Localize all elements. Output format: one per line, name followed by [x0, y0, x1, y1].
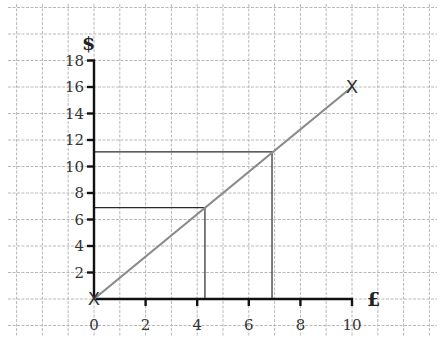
y-tick-label: 6 [74, 211, 84, 229]
y-tick-label: 12 [65, 131, 84, 149]
y-tick-label: 18 [65, 52, 84, 70]
y-axis-label: $ [82, 32, 95, 54]
x-marker: X [88, 288, 100, 309]
x-marker: X [346, 76, 358, 97]
y-tick-label: 8 [74, 184, 84, 202]
y-tick-label: 14 [65, 105, 84, 123]
x-tick-label: 4 [192, 316, 202, 334]
x-tick-label: 6 [244, 316, 254, 334]
axes [87, 61, 352, 307]
x-axis-label: £ [367, 288, 380, 310]
y-tick-label: 2 [74, 264, 84, 282]
y-tick-label: 10 [65, 158, 84, 176]
x-tick-label: 0 [89, 316, 99, 334]
x-tick-label: 8 [296, 316, 306, 334]
x-tick-label: 10 [342, 316, 361, 334]
x-tick-label: 2 [141, 316, 151, 334]
y-tick-label: 16 [65, 78, 84, 96]
y-tick-label: 4 [74, 237, 84, 255]
currency-conversion-chart: 246810121416180246810 XX $ £ [0, 0, 443, 350]
ticks [87, 87, 300, 306]
y-axis [87, 61, 94, 300]
